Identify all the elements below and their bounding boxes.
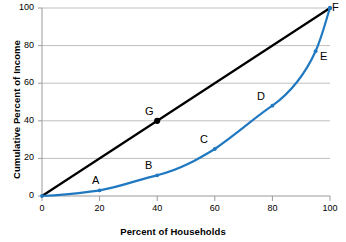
x-tick-label-80: 80 [257,203,287,213]
x-tick-marks [42,196,330,201]
data-point-A [98,189,102,193]
point-label-A: A [92,174,99,186]
x-tick-label-40: 40 [142,203,172,213]
x-tick-label-20: 20 [85,203,115,213]
data-point-B [155,173,159,177]
x-tick-label-60: 60 [200,203,230,213]
point-label-G: G [145,105,154,117]
data-point-E [314,49,318,53]
equality-line-series [42,8,330,196]
data-point-G [154,118,160,124]
lorenz-curve-chart: 100 80 60 40 20 0 0 20 40 60 80 100 A B … [0,0,346,242]
point-label-B: B [145,159,152,171]
data-point-C [213,147,217,151]
point-label-D: D [257,90,265,102]
data-point-D [271,104,275,108]
gridlines [42,8,330,158]
data-point-origin [40,194,44,198]
x-axis-title: Percent of Households [0,226,346,237]
y-tick-marks [38,8,42,196]
x-tick-label-0: 0 [27,203,57,213]
x-tick-label-100: 100 [315,203,345,213]
y-axis-title: Cumulative Percent of Income [11,10,22,210]
point-label-C: C [200,133,208,145]
point-label-E: E [320,50,327,62]
point-label-F: F [332,1,339,13]
